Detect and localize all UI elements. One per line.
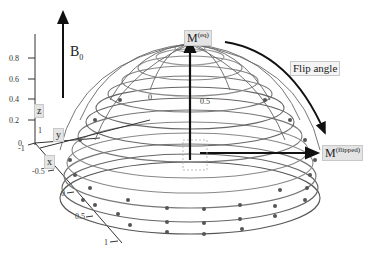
svg-text:0.2: 0.2 — [9, 116, 19, 125]
z-axis-label: z — [34, 104, 44, 118]
svg-text:1: 1 — [104, 238, 108, 247]
svg-text:0.6: 0.6 — [9, 75, 19, 84]
m-flipped-label: M(flipped) — [322, 145, 363, 161]
b0-label: B0 — [70, 44, 83, 62]
m-eq-label: M(eq) — [184, 30, 212, 46]
svg-text:0: 0 — [148, 93, 152, 102]
svg-text:-0.5: -0.5 — [32, 167, 45, 176]
x-axis-label: x — [44, 155, 55, 169]
svg-text:0.4: 0.4 — [9, 95, 19, 104]
flip-angle-label: Flip angle — [290, 61, 340, 76]
svg-text:-1: -1 — [18, 144, 25, 153]
svg-text:0.5: 0.5 — [200, 97, 210, 106]
svg-text:1: 1 — [38, 126, 42, 135]
svg-text:0.5: 0.5 — [75, 212, 85, 221]
y-axis-label: y — [53, 128, 64, 142]
svg-text:0.8: 0.8 — [9, 54, 19, 63]
